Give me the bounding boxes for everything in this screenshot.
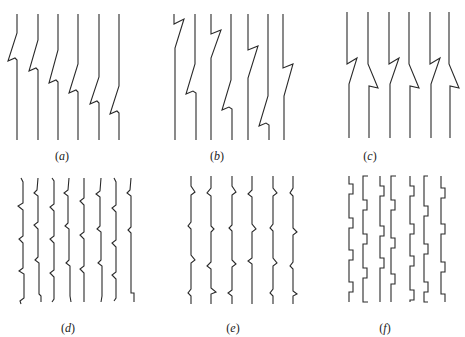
panel-a-label: (a)	[55, 149, 69, 163]
panel-d-line-6	[96, 178, 102, 302]
panel-b-line-1	[174, 14, 184, 140]
panel-a-line-6	[110, 14, 119, 140]
panel-c-line-1	[347, 12, 357, 138]
panel-c-line-2	[368, 12, 378, 138]
panel-d-label: (d)	[61, 321, 75, 335]
panel-a-line-5	[90, 14, 99, 140]
panel-f-line-5	[410, 176, 414, 302]
panel-c: (c)	[347, 12, 459, 163]
panel-d-line-5	[80, 178, 84, 302]
panel-c-lines	[347, 12, 459, 138]
panel-f-line-4	[391, 176, 396, 302]
panel-e-label: (e)	[226, 321, 239, 335]
panel-d-line-3	[50, 178, 54, 302]
panel-e-line-4	[248, 176, 256, 304]
panel-e-line-1	[188, 176, 195, 304]
panel-f-lines	[349, 176, 445, 302]
panel-f-line-1	[349, 176, 353, 302]
panel-e-line-2	[207, 176, 216, 304]
panel-d-line-8	[127, 178, 134, 302]
panel-c-line-5	[430, 12, 440, 138]
panel-a-line-4	[69, 14, 78, 140]
panel-d-lines	[18, 178, 134, 304]
panel-a-lines	[8, 14, 119, 140]
figure: (a) (b) (c) (d) (e) (f)	[0, 0, 465, 337]
panel-b-line-2	[186, 14, 196, 140]
panel-a-line-1	[8, 14, 17, 140]
panel-b-label: (b)	[210, 149, 224, 163]
panel-b-line-3	[211, 14, 221, 140]
panel-a: (a)	[8, 14, 119, 163]
panel-f-label: (f)	[379, 321, 390, 335]
panel-f-line-7	[441, 176, 445, 302]
panel-d-line-1	[18, 178, 24, 304]
panel-f-line-3	[380, 176, 384, 302]
panel-c-line-3	[389, 12, 399, 138]
panel-e-line-5	[270, 176, 277, 304]
panel-b-line-5	[248, 14, 258, 140]
panel-a-line-3	[49, 14, 58, 140]
panel-c-line-4	[409, 12, 419, 138]
panel-c-line-6	[449, 12, 459, 138]
panel-f-line-2	[363, 176, 368, 302]
panel-d-line-7	[112, 178, 116, 301]
panel-c-label: (c)	[363, 149, 376, 163]
panel-e: (e)	[188, 176, 297, 335]
panel-b: (b)	[174, 14, 293, 163]
panel-e-line-6	[290, 176, 297, 304]
panel-e-line-3	[228, 176, 236, 304]
panel-a-line-2	[29, 14, 38, 140]
panel-d-line-2	[34, 178, 41, 302]
panel-e-lines	[188, 176, 297, 304]
panel-b-line-6	[259, 14, 269, 140]
panel-f-line-6	[424, 176, 428, 302]
panel-d: (d)	[18, 178, 134, 335]
panel-f: (f)	[349, 176, 445, 335]
panel-b-line-4	[222, 14, 232, 140]
panel-d-line-4	[64, 178, 71, 302]
panel-b-line-7	[283, 14, 293, 140]
panel-b-lines	[174, 14, 293, 140]
